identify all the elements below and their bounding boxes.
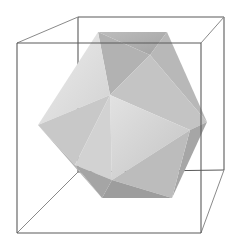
scene-canvas: [0, 0, 240, 250]
box-edge-connect-top-right: [201, 17, 224, 43]
box-edge-connect-top-left: [17, 17, 78, 43]
box-edge-connect-bottom-left: [17, 172, 78, 233]
icosahedron: [38, 32, 207, 198]
box-edge-connect-bottom-right: [201, 170, 224, 233]
